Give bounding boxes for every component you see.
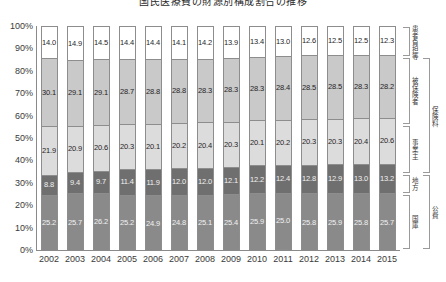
bar-segment[interactable]: 14.1 (172, 27, 187, 59)
bar-segment[interactable]: 20.6 (380, 118, 395, 164)
stacked-bar[interactable]: 14.428.720.311.425.2 (119, 26, 136, 250)
bar-segment[interactable]: 12.3 (380, 27, 395, 55)
bar-segment[interactable]: 20.9 (68, 126, 83, 173)
bar-segment[interactable]: 25.9 (250, 193, 265, 251)
stacked-bar[interactable]: 14.128.820.212.024.8 (171, 26, 188, 250)
bar-segment[interactable]: 25.7 (68, 193, 83, 251)
stacked-bar[interactable]: 13.928.320.312.125.4 (223, 26, 240, 250)
stacked-bar[interactable]: 14.529.120.69.726.2 (93, 26, 110, 250)
bar-segment[interactable]: 9.7 (94, 171, 109, 193)
bar-segment[interactable]: 12.4 (276, 165, 291, 193)
bar-segment[interactable]: 14.2 (198, 27, 213, 59)
bar-segment[interactable]: 25.9 (328, 193, 343, 251)
bar-column[interactable]: 14.228.320.412.025.1 (197, 26, 214, 250)
bar-segment[interactable]: 25.8 (302, 193, 317, 251)
bar-segment[interactable]: 24.8 (172, 195, 187, 251)
stacked-bar[interactable]: 14.030.121.98.825.2 (41, 26, 58, 250)
bar-segment[interactable]: 24.9 (146, 195, 161, 251)
bar-segment[interactable]: 12.6 (302, 27, 317, 55)
bar-segment[interactable]: 13.2 (380, 164, 395, 194)
bar-segment[interactable]: 28.8 (146, 59, 161, 124)
bar-segment[interactable]: 21.9 (42, 126, 57, 175)
bar-segment[interactable]: 13.0 (354, 164, 369, 193)
bar-segment[interactable]: 28.3 (198, 59, 213, 122)
bar-segment[interactable]: 25.2 (120, 195, 135, 251)
bar-segment[interactable]: 20.6 (94, 125, 109, 171)
bar-segment[interactable]: 9.4 (68, 172, 83, 193)
stacked-bar[interactable]: 13.428.320.112.225.9 (249, 26, 266, 250)
bar-segment[interactable]: 20.4 (198, 122, 213, 168)
bar-column[interactable]: 13.428.320.112.225.9 (249, 26, 266, 250)
bar-segment[interactable]: 28.3 (250, 57, 265, 120)
bar-segment[interactable]: 29.1 (94, 59, 109, 124)
bar-segment[interactable]: 12.0 (198, 168, 213, 195)
bar-segment[interactable]: 11.4 (120, 169, 135, 195)
bar-segment[interactable]: 29.1 (68, 60, 83, 125)
bar-column[interactable]: 12.528.320.413.025.8 (353, 26, 370, 250)
bar-column[interactable]: 13.028.420.212.425.0 (275, 26, 292, 250)
stacked-bar[interactable]: 12.628.520.312.825.8 (301, 26, 318, 250)
stacked-bar[interactable]: 14.228.320.412.025.1 (197, 26, 214, 250)
bar-column[interactable]: 14.929.120.99.425.7 (67, 26, 84, 250)
bar-segment[interactable]: 20.1 (250, 120, 265, 165)
bar-segment[interactable]: 28.3 (354, 55, 369, 118)
bar-column[interactable]: 14.128.820.212.024.8 (171, 26, 188, 250)
bar-segment[interactable]: 11.9 (146, 169, 161, 196)
bar-segment[interactable]: 14.4 (146, 27, 161, 59)
bar-segment[interactable]: 13.9 (224, 27, 239, 58)
bar-column[interactable]: 14.030.121.98.825.2 (41, 26, 58, 250)
bar-segment[interactable]: 25.2 (42, 195, 57, 251)
bar-segment[interactable]: 28.5 (302, 55, 317, 119)
bar-segment[interactable]: 14.0 (42, 27, 57, 58)
bar-segment[interactable]: 28.4 (276, 56, 291, 120)
bar-segment[interactable]: 20.2 (172, 123, 187, 168)
stacked-bar[interactable]: 14.428.820.111.924.9 (145, 26, 162, 250)
bar-column[interactable]: 13.928.320.312.125.4 (223, 26, 240, 250)
bar-segment[interactable]: 8.8 (42, 175, 57, 195)
bar-segment[interactable]: 20.3 (120, 124, 135, 169)
bar-segment[interactable]: 28.2 (380, 55, 395, 118)
bar-segment[interactable]: 20.4 (354, 118, 369, 164)
bar-segment[interactable]: 25.0 (276, 193, 291, 249)
stacked-bar[interactable]: 13.028.420.212.425.0 (275, 26, 292, 250)
bar-segment[interactable]: 14.9 (68, 27, 83, 60)
bar-segment[interactable]: 12.5 (354, 27, 369, 55)
bar-segment[interactable]: 12.2 (250, 165, 265, 192)
bar-column[interactable]: 12.628.520.312.825.8 (301, 26, 318, 250)
bar-segment[interactable]: 25.4 (224, 194, 239, 251)
bar-segment[interactable]: 13.0 (276, 27, 291, 56)
bar-column[interactable]: 14.428.720.311.425.2 (119, 26, 136, 250)
stacked-bar[interactable]: 12.528.320.413.025.8 (353, 26, 370, 250)
bar-segment[interactable]: 25.7 (380, 193, 395, 251)
bar-segment[interactable]: 12.0 (172, 168, 187, 195)
bar-segment[interactable]: 25.1 (198, 195, 213, 251)
bar-column[interactable]: 14.529.120.69.726.2 (93, 26, 110, 250)
stacked-bar[interactable]: 12.528.520.312.925.9 (327, 26, 344, 250)
bar-segment[interactable]: 26.2 (94, 193, 109, 252)
bar-segment[interactable]: 20.3 (328, 119, 343, 164)
bar-segment[interactable]: 20.2 (276, 120, 291, 165)
bar-segment-value: 12.3 (380, 37, 394, 45)
bar-segment[interactable]: 14.5 (94, 27, 109, 59)
bar-segment[interactable]: 28.3 (224, 58, 239, 121)
bar-segment[interactable]: 20.3 (224, 122, 239, 167)
bar-segment[interactable]: 28.8 (172, 59, 187, 124)
bar-segment[interactable]: 12.9 (328, 164, 343, 193)
bar-column[interactable]: 12.528.520.312.925.9 (327, 26, 344, 250)
bar-segment[interactable]: 12.8 (302, 165, 317, 194)
bar-segment[interactable]: 12.5 (328, 27, 343, 55)
bar-segment[interactable]: 20.1 (146, 124, 161, 169)
stacked-bar[interactable]: 12.328.220.613.225.7 (379, 26, 396, 250)
bar-segment[interactable]: 14.4 (120, 27, 135, 59)
bar-segment[interactable]: 30.1 (42, 58, 57, 125)
bar-segment[interactable]: 12.1 (224, 167, 239, 194)
bar-segment[interactable]: 28.5 (328, 55, 343, 119)
x-tick-label: 2012 (299, 253, 319, 265)
bar-column[interactable]: 12.328.220.613.225.7 (379, 26, 396, 250)
bar-segment[interactable]: 25.8 (354, 193, 369, 251)
bar-segment[interactable]: 20.3 (302, 119, 317, 164)
bar-segment[interactable]: 13.4 (250, 27, 265, 57)
bar-segment[interactable]: 28.7 (120, 59, 135, 123)
bar-column[interactable]: 14.428.820.111.924.9 (145, 26, 162, 250)
stacked-bar[interactable]: 14.929.120.99.425.7 (67, 26, 84, 250)
